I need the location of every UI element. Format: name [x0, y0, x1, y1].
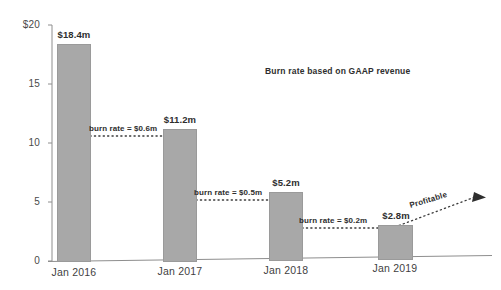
burn-rate-label-1: burn rate = $0.6m: [89, 124, 157, 133]
y-tick-label-15: 15: [6, 78, 40, 89]
y-tick-label-5: 5: [6, 196, 40, 207]
x-tick-label-jan-2017: Jan 2017: [135, 265, 225, 277]
bar-jan-2017: [163, 129, 197, 262]
bar-jan-2016: [57, 44, 91, 262]
x-tick-label-jan-2016: Jan 2016: [29, 266, 119, 278]
chart-annotation-note: Burn rate based on GAAP revenue: [265, 66, 410, 76]
plot-area: $20 15 10 5 0 $18.4m $11.2m $5.2m $2.8m …: [0, 0, 501, 290]
x-tick-label-jan-2019: Jan 2019: [350, 262, 440, 274]
bar-chart: $20 15 10 5 0 $18.4m $11.2m $5.2m $2.8m …: [0, 0, 501, 290]
bar-value-label-jan-2016: $18.4m: [29, 29, 119, 40]
y-tick-label-0: 0: [6, 255, 40, 266]
y-tick-label-10: 10: [6, 137, 40, 148]
bar-jan-2019: [378, 225, 413, 260]
bar-value-label-jan-2018: $5.2m: [241, 177, 331, 188]
x-tick-label-jan-2018: Jan 2018: [241, 264, 331, 276]
burn-rate-label-2: burn rate = $0.5m: [194, 188, 262, 197]
profitability-arrow-icon: [472, 192, 486, 202]
burn-rate-label-3: burn rate = $0.2m: [299, 216, 367, 225]
bar-jan-2018: [269, 192, 303, 261]
